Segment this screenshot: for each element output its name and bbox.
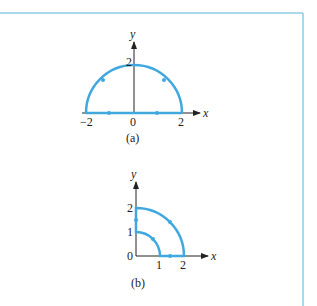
direction-arrows: [134, 218, 172, 258]
x-tick-0: 0: [130, 115, 136, 129]
figure-b: y x 2 1 0 1 2 (b): [127, 167, 217, 290]
y-tick-1: 1: [127, 225, 133, 239]
caption-b: (b): [131, 276, 145, 290]
x-axis-label: x: [210, 249, 217, 263]
x-tick-1: 1: [156, 258, 162, 272]
y-tick-2: 2: [126, 55, 132, 69]
x-tick-2: 2: [178, 115, 184, 129]
frame-border: [0, 13, 303, 306]
y-axis-label: y: [129, 27, 136, 41]
y-axis-label: y: [130, 167, 137, 181]
caption-a: (a): [126, 131, 139, 145]
x-tick-neg2: −2: [80, 115, 93, 129]
x-axis-label: x: [202, 106, 209, 120]
quarter-annulus-contour: [136, 208, 184, 256]
figure-a: y x 2 −2 0 2 (a): [80, 27, 209, 145]
figure-frame: y x 2 −2 0 2 (a) y x 2 1 0 1 2 (b): [0, 0, 317, 306]
y-tick-0: 0: [127, 249, 133, 263]
x-tick-2: 2: [180, 258, 186, 272]
y-tick-2: 2: [127, 201, 133, 215]
